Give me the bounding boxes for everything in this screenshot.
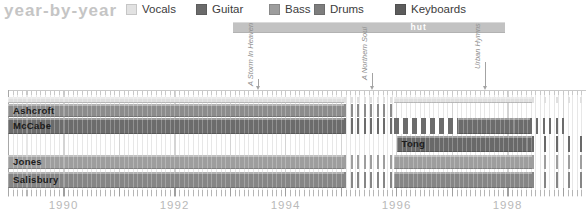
- timeline-segment: [8, 104, 344, 117]
- member-name-label: Ashcroft: [13, 104, 54, 117]
- timeline-segment: [344, 172, 394, 188]
- band-timeline-chart: year-by-year VocalsGuitarBassDrumsKeyboa…: [0, 0, 587, 215]
- year-tick-label: 1998: [493, 199, 523, 211]
- timeline-segment: [394, 118, 458, 134]
- timeline-segment: [458, 118, 530, 134]
- timeline-segment: [394, 172, 533, 188]
- member-bars: AshcroftMcCabeTongJonesSalisbury: [0, 0, 587, 215]
- timeline-segment: [532, 155, 585, 169]
- year-tick-label: 1990: [49, 199, 79, 211]
- member-name-label: Salisbury: [13, 172, 58, 188]
- timeline-segment: [344, 97, 394, 103]
- timeline-segment: [532, 136, 585, 152]
- timeline-segment: [8, 97, 344, 103]
- timeline-segment: [8, 155, 344, 169]
- member-name-label: Tong: [402, 136, 426, 152]
- timeline-segment: [394, 97, 533, 103]
- timeline-segment: [532, 172, 585, 188]
- member-name-label: Jones: [13, 155, 42, 169]
- timeline-segment: [8, 118, 344, 134]
- timeline-segment: [344, 104, 394, 117]
- year-tick-label: 1994: [271, 199, 301, 211]
- timeline-segment: [344, 118, 394, 134]
- year-tick-label: 1996: [382, 199, 412, 211]
- member-name-label: McCabe: [13, 118, 51, 134]
- year-tick-label: 1992: [160, 199, 190, 211]
- timeline-segment: [394, 155, 533, 169]
- timeline-segment: [344, 155, 394, 169]
- timeline-segment: [532, 97, 585, 103]
- timeline-segment: [530, 118, 566, 134]
